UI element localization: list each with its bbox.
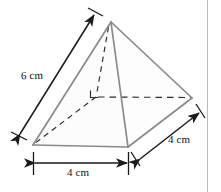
dimension-tick-4cm-side-bottom [131,152,140,166]
pyramid-diagram-svg [0,0,221,192]
dimension-tick-6cm-bottom [11,132,27,140]
dimension-label-base-width: 4 cm [67,167,89,178]
dimension-tick-6cm-top [88,8,103,16]
pyramid-faces [33,22,192,147]
page-edge-rule [207,0,208,192]
dimension-tick-4cm-side-top [196,104,205,118]
pyramid-figure: 6 cm 4 cm 4 cm [0,0,221,192]
dimension-label-base-depth: 4 cm [168,134,190,145]
dimension-label-slant-height: 6 cm [21,70,43,81]
